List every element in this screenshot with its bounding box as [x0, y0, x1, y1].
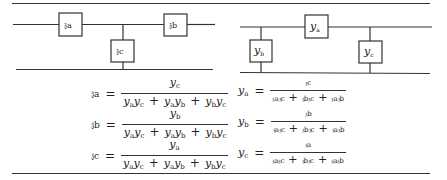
- fraction: 𝔷a 𝔷a𝔷c+𝔷b𝔷c+𝔷a𝔷b: [270, 139, 346, 167]
- fraction: 𝔷b 𝔷a𝔷c+𝔷b𝔷c+𝔷a𝔷b: [271, 108, 347, 136]
- eq-lhs-za: 𝔷a: [91, 89, 99, 100]
- equation-zc: 𝔷c = ya yayc+yayb+ybyc: [91, 139, 228, 173]
- eq-lhs-zc: 𝔷c: [91, 151, 99, 162]
- equation-ya: ya = 𝔷c 𝔷a𝔷c+𝔷b𝔷c+𝔷a𝔷b: [238, 77, 346, 105]
- label-zb: 𝔷b: [169, 21, 177, 30]
- pi-network-diagram: [240, 15, 432, 74]
- eq-lhs-ya: ya: [238, 84, 248, 98]
- equation-za: 𝔷a = yc yayc+yayb+ybyc: [91, 77, 228, 111]
- fraction: 𝔷c 𝔷a𝔷c+𝔷b𝔷c+𝔷a𝔷b: [270, 77, 346, 105]
- eq-lhs-yc: yc: [238, 146, 248, 160]
- equation-yb: yb = 𝔷b 𝔷a𝔷c+𝔷b𝔷c+𝔷a𝔷b: [238, 108, 346, 136]
- eq-lhs-yb: yb: [238, 115, 249, 129]
- label-zc: 𝔷c: [116, 47, 124, 56]
- equation-yc: yc = 𝔷a 𝔷a𝔷c+𝔷b𝔷c+𝔷a𝔷b: [238, 139, 346, 167]
- label-za: 𝔷a: [64, 21, 72, 30]
- t-network-diagram: [13, 13, 215, 70]
- fraction: ya yayc+yayb+ybyc: [121, 139, 228, 173]
- fraction: yb yayc+yayb+ybyc: [122, 108, 229, 142]
- eq-lhs-zb: 𝔷b: [91, 120, 100, 131]
- equation-zb: 𝔷b = yb yayc+yayb+ybyc: [91, 108, 228, 142]
- fraction: yc yayc+yayb+ybyc: [121, 77, 228, 111]
